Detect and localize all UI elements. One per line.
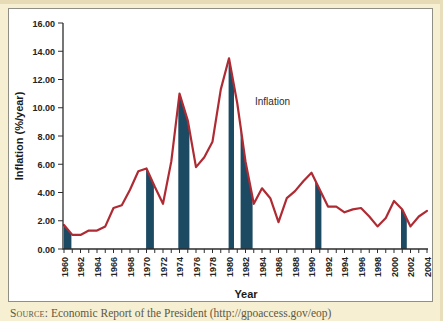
svg-text:1984: 1984 bbox=[258, 257, 268, 277]
svg-text:6.00: 6.00 bbox=[37, 160, 55, 170]
source-text: Economic Report of the President (http:/… bbox=[48, 307, 331, 319]
svg-text:1998: 1998 bbox=[373, 257, 383, 277]
svg-text:1992: 1992 bbox=[324, 257, 334, 277]
svg-text:2002: 2002 bbox=[406, 257, 416, 277]
svg-text:10.00: 10.00 bbox=[32, 103, 55, 113]
svg-text:0.00: 0.00 bbox=[37, 245, 55, 255]
page-top-edge bbox=[0, 0, 443, 4]
svg-text:2000: 2000 bbox=[390, 257, 400, 277]
svg-text:1962: 1962 bbox=[76, 257, 86, 277]
svg-text:1960: 1960 bbox=[60, 257, 70, 277]
svg-text:8.00: 8.00 bbox=[37, 132, 55, 142]
svg-text:1986: 1986 bbox=[274, 257, 284, 277]
svg-text:1996: 1996 bbox=[357, 257, 367, 277]
x-axis-title: Year bbox=[186, 288, 306, 300]
svg-text:1990: 1990 bbox=[307, 257, 317, 277]
inflation-chart-svg: 0.002.004.006.008.0010.0012.0014.0016.00… bbox=[9, 9, 432, 301]
svg-text:1980: 1980 bbox=[225, 257, 235, 277]
svg-text:1988: 1988 bbox=[291, 257, 301, 277]
svg-text:1976: 1976 bbox=[192, 257, 202, 277]
svg-text:1968: 1968 bbox=[126, 257, 136, 277]
svg-text:1970: 1970 bbox=[142, 257, 152, 277]
source-label: Source: bbox=[10, 307, 48, 319]
inflation-line-label: Inflation bbox=[255, 96, 290, 107]
source-note: Source: Economic Report of the President… bbox=[10, 307, 440, 319]
svg-text:1978: 1978 bbox=[208, 257, 218, 277]
svg-text:4.00: 4.00 bbox=[37, 188, 55, 198]
svg-text:1974: 1974 bbox=[175, 257, 185, 277]
svg-text:1972: 1972 bbox=[159, 257, 169, 277]
svg-text:2004: 2004 bbox=[423, 257, 433, 277]
svg-text:1966: 1966 bbox=[109, 257, 119, 277]
svg-text:1982: 1982 bbox=[241, 257, 251, 277]
y-axis-title: Inflation (%/year) bbox=[13, 86, 29, 186]
chart-panel: 0.002.004.006.008.0010.0012.0014.0016.00… bbox=[8, 8, 433, 302]
svg-text:1994: 1994 bbox=[340, 257, 350, 277]
svg-text:16.00: 16.00 bbox=[32, 19, 55, 29]
svg-text:1964: 1964 bbox=[93, 257, 103, 277]
svg-text:12.00: 12.00 bbox=[32, 75, 55, 85]
svg-text:2.00: 2.00 bbox=[37, 216, 55, 226]
svg-text:14.00: 14.00 bbox=[32, 47, 55, 57]
